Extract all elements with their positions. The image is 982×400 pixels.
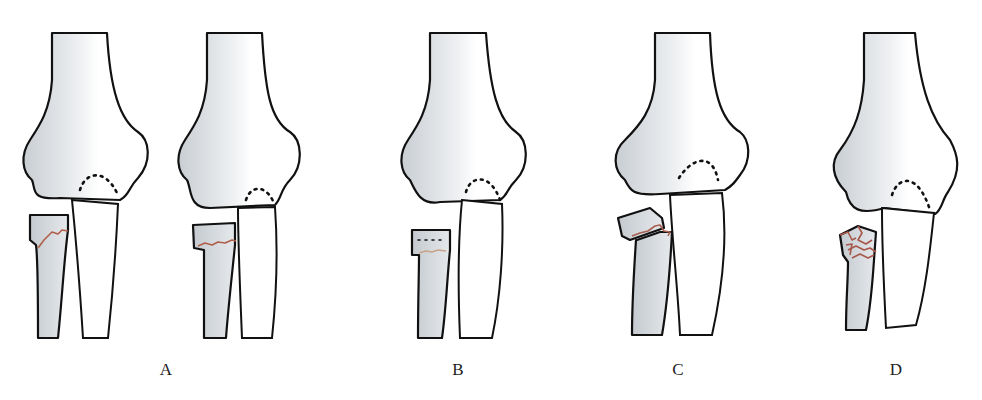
panel-a-view-1 bbox=[23, 33, 147, 338]
panel-label-b: B bbox=[443, 360, 473, 380]
panel-a-view-2 bbox=[178, 33, 299, 338]
humerus bbox=[178, 33, 299, 208]
panel-b bbox=[401, 33, 525, 338]
humerus bbox=[23, 33, 147, 200]
ulna bbox=[670, 193, 724, 335]
ulna bbox=[238, 207, 276, 338]
humerus bbox=[401, 33, 525, 203]
panel-label-a: A bbox=[151, 360, 181, 380]
ulna bbox=[882, 208, 934, 328]
humerus bbox=[616, 33, 749, 194]
radius bbox=[412, 230, 450, 338]
radius bbox=[30, 215, 68, 338]
ulna bbox=[72, 200, 118, 338]
panel-label-c: C bbox=[663, 360, 693, 380]
elbow-fracture-diagram bbox=[0, 0, 982, 400]
radius bbox=[632, 232, 672, 335]
panel-label-d: D bbox=[881, 360, 911, 380]
panel-c bbox=[616, 33, 749, 335]
radius bbox=[193, 223, 235, 338]
panel-d bbox=[834, 33, 958, 330]
ulna bbox=[459, 200, 503, 338]
